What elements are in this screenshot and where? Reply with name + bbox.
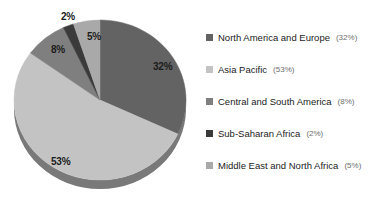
pie-slice-label: 8% xyxy=(51,44,65,55)
legend-item-value: (2%) xyxy=(306,128,323,139)
legend-swatch-icon xyxy=(206,130,213,137)
legend-item-label: Asia Pacific xyxy=(218,64,267,75)
legend-item-value: (53%) xyxy=(273,64,294,75)
legend-swatch-icon xyxy=(206,34,213,41)
legend-swatch-icon xyxy=(206,66,213,73)
legend-item-value: (8%) xyxy=(338,96,355,107)
legend-item-value: (5%) xyxy=(344,160,361,171)
legend-item[interactable]: Sub-Saharan Africa(2%) xyxy=(206,126,323,140)
legend-item-label: Central and South America xyxy=(218,96,332,107)
legend-swatch-icon xyxy=(206,98,213,105)
pie-plot-area: 32%53%8%2%5% xyxy=(0,0,200,205)
chart-legend: North America and Europe(32%)Asia Pacifi… xyxy=(206,30,392,190)
legend-item-label: Sub-Saharan Africa xyxy=(218,128,300,139)
legend-item[interactable]: Asia Pacific(53%) xyxy=(206,62,294,76)
legend-item-label: Middle East and North Africa xyxy=(218,160,338,171)
legend-swatch-icon xyxy=(206,162,213,169)
pie-slices xyxy=(14,20,186,180)
legend-item[interactable]: Middle East and North Africa(5%) xyxy=(206,158,361,172)
pie-slice-label: 32% xyxy=(153,61,172,72)
legend-item-label: North America and Europe xyxy=(218,32,330,43)
pie-slice-label: 2% xyxy=(61,11,75,22)
legend-item[interactable]: North America and Europe(32%) xyxy=(206,30,357,44)
pie-chart: 32%53%8%2%5% North America and Europe(32… xyxy=(0,0,392,205)
legend-item-value: (32%) xyxy=(336,32,357,43)
pie-slice-label: 53% xyxy=(51,156,70,167)
pie-slice-label: 5% xyxy=(87,31,101,42)
legend-item[interactable]: Central and South America(8%) xyxy=(206,94,354,108)
